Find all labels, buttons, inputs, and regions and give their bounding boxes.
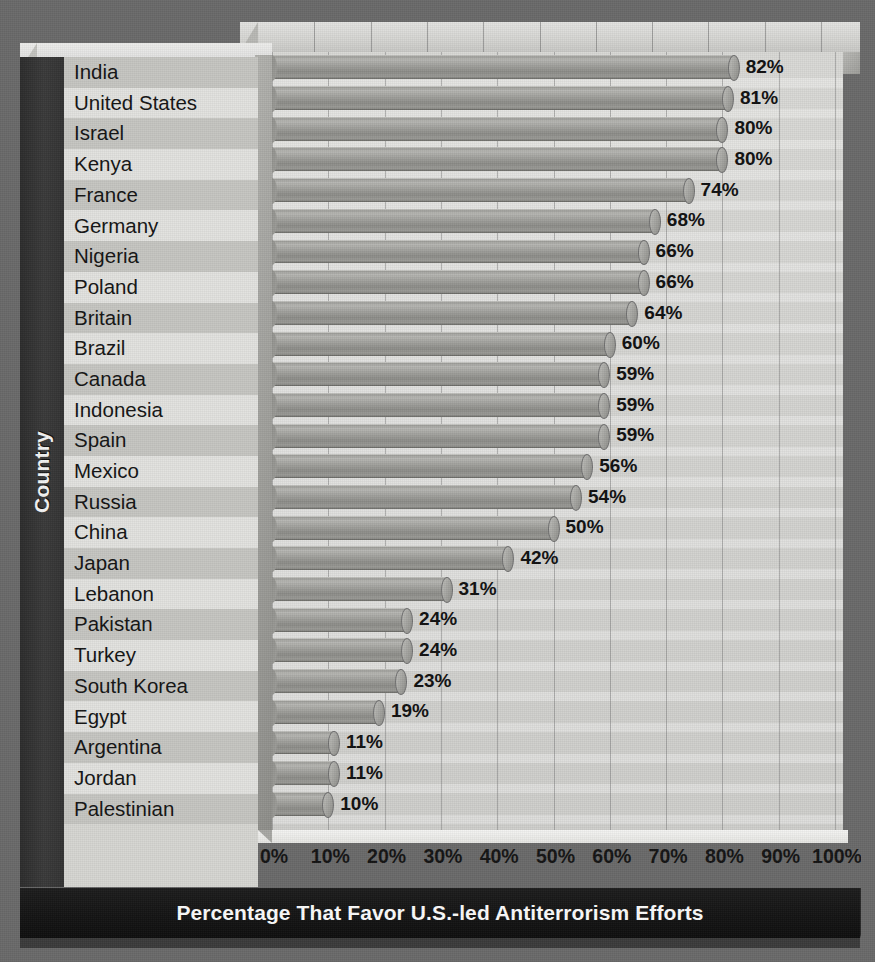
bar-slot: 80% [272, 144, 843, 175]
category-label: Argentina [64, 737, 162, 758]
bar[interactable] [272, 546, 508, 570]
plot-area: 82%81%80%80%74%68%66%66%64%60%59%59%59%5… [272, 52, 843, 830]
bar-slot: 74% [272, 175, 843, 206]
category-label-row: United States [64, 88, 258, 119]
bar-end-cap [722, 86, 734, 112]
bar-slot: 19% [272, 696, 843, 727]
x-axis-tick-label: 80% [705, 845, 744, 868]
y-axis-title-text: Country [30, 431, 54, 513]
x-axis-tick-label: 90% [761, 845, 800, 868]
category-label: Indonesia [64, 400, 163, 421]
slab-gridline [821, 22, 822, 52]
category-label: Egypt [64, 707, 126, 728]
category-label-row: Poland [64, 272, 258, 303]
bar[interactable] [272, 301, 632, 325]
bar-value-label: 11% [346, 731, 383, 752]
bar-value-label: 80% [734, 148, 772, 169]
bar-slot: 23% [272, 666, 843, 697]
bar[interactable] [272, 178, 689, 202]
bar[interactable] [272, 209, 655, 233]
bar-slot: 66% [272, 267, 843, 298]
bar-end-cap [395, 669, 407, 695]
bar[interactable] [272, 792, 328, 816]
bar[interactable] [272, 393, 604, 417]
bar-end-cap [626, 301, 638, 327]
bar-slot: 81% [272, 83, 843, 114]
category-label: Israel [64, 123, 124, 144]
x-axis-tick-label: 70% [649, 845, 688, 868]
bar[interactable] [272, 86, 728, 110]
category-label: Kenya [64, 154, 132, 175]
slab-gridline [427, 22, 428, 52]
bar-slot: 42% [272, 543, 843, 574]
bar[interactable] [272, 362, 604, 386]
bar-value-label: 74% [701, 179, 739, 200]
category-label-row: France [64, 180, 258, 211]
bar-end-cap [598, 424, 610, 450]
x-axis-tick-label: 0% [260, 845, 288, 868]
bar-end-cap [716, 147, 728, 173]
bar-slot: 11% [272, 727, 843, 758]
bar-end-cap [638, 270, 650, 296]
chart-title-text: Percentage That Favor U.S.-led Antiterro… [176, 901, 703, 925]
category-label: Russia [64, 492, 137, 513]
bar-slot: 68% [272, 205, 843, 236]
category-label-row: Britain [64, 303, 258, 334]
bar[interactable] [272, 669, 401, 693]
category-label-row: Palestinian [64, 794, 258, 825]
bar-end-cap [598, 393, 610, 419]
bar[interactable] [272, 454, 587, 478]
bar[interactable] [272, 147, 722, 171]
slab-gridline [371, 22, 372, 52]
x-axis-tick-label: 10% [311, 845, 350, 868]
bar[interactable] [272, 332, 610, 356]
bar-slot: 24% [272, 635, 843, 666]
category-label-row: Kenya [64, 149, 258, 180]
x-axis-tick-label: 30% [423, 845, 462, 868]
bar[interactable] [272, 761, 334, 785]
category-label: Germany [64, 216, 158, 237]
bar[interactable] [272, 638, 407, 662]
category-label: Poland [64, 277, 138, 298]
category-label: China [64, 522, 128, 543]
bar-slot: 80% [272, 113, 843, 144]
category-label: Canada [64, 369, 146, 390]
bar[interactable] [272, 485, 576, 509]
bar-end-cap [716, 117, 728, 143]
category-label: Lebanon [64, 584, 154, 605]
bar-slot: 31% [272, 574, 843, 605]
bar[interactable] [272, 700, 379, 724]
bar-slot: 10% [272, 789, 843, 820]
slab-gridline [652, 22, 653, 52]
bar-slot: 82% [272, 52, 843, 83]
bar[interactable] [272, 240, 644, 264]
slab-gridline [483, 22, 484, 52]
bar-value-label: 56% [599, 455, 637, 476]
category-label: Pakistan [64, 614, 153, 635]
bar-value-label: 82% [746, 56, 784, 77]
bar-value-label: 10% [340, 793, 378, 814]
bar[interactable] [272, 117, 722, 141]
x-axis-lip-bevel [258, 830, 272, 843]
bar[interactable] [272, 55, 734, 79]
bar[interactable] [272, 516, 554, 540]
category-label-row: Jordan [64, 763, 258, 794]
bar[interactable] [272, 731, 334, 755]
bar-end-cap [373, 700, 385, 726]
category-label-row: Canada [64, 364, 258, 395]
bar-slot: 59% [272, 390, 843, 421]
bar[interactable] [272, 577, 447, 601]
category-label-row: Nigeria [64, 241, 258, 272]
bar-slot: 59% [272, 359, 843, 390]
category-label-row: India [64, 57, 258, 88]
category-label-row: Germany [64, 210, 258, 241]
bar-slot: 11% [272, 758, 843, 789]
bar[interactable] [272, 270, 644, 294]
category-label: Japan [64, 553, 130, 574]
bar-end-cap [502, 546, 514, 572]
bar[interactable] [272, 608, 407, 632]
bar[interactable] [272, 424, 604, 448]
category-label-row: Russia [64, 487, 258, 518]
category-label: United States [64, 93, 197, 114]
bar-end-cap [649, 209, 661, 235]
